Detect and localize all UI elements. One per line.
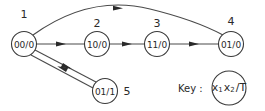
arrowhead-icon — [122, 42, 132, 47]
edge-2-to-3 — [109, 42, 145, 47]
state-node-2: 2 10/0 — [85, 17, 110, 57]
state-node-5: 01/1 5 — [93, 79, 131, 104]
arrowhead-icon — [56, 42, 66, 47]
node-number: 4 — [228, 15, 235, 28]
state-diagram: 1 00/0 2 10/0 3 11/0 4 01/0 01/1 5 Key :… — [0, 0, 265, 111]
node-label: 10/0 — [87, 40, 107, 50]
node-label: 11/0 — [147, 40, 167, 50]
arrowhead-icon — [189, 42, 199, 47]
edge-1-to-2 — [36, 42, 85, 47]
key-label: Key : — [178, 83, 203, 94]
state-node-1: 1 00/0 — [12, 8, 37, 57]
arrowhead-icon — [113, 6, 123, 11]
edge-3-to-4 — [169, 42, 219, 47]
node-label: 00/0 — [14, 40, 34, 50]
node-label: 01/0 — [221, 40, 241, 50]
edge-1-to-4-arc — [33, 5, 223, 35]
state-node-4: 4 01/0 — [219, 15, 244, 57]
node-number: 2 — [94, 17, 101, 30]
key-format: x1x2/T — [212, 81, 247, 95]
edge-5-to-1 — [31, 55, 93, 88]
node-number: 5 — [124, 85, 131, 98]
state-node-3: 3 11/0 — [145, 17, 170, 57]
node-number: 1 — [21, 8, 28, 21]
node-label: 01/1 — [95, 87, 115, 97]
edge-1-to-5 — [35, 50, 96, 82]
node-number: 3 — [154, 17, 161, 30]
legend-key: Key : x1x2/T — [178, 71, 246, 105]
